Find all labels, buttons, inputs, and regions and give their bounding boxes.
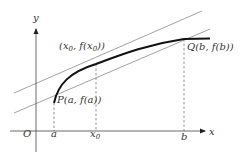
tick-label-b: b [181, 131, 187, 142]
secant-line [14, 29, 210, 113]
point-p-label: P(a, f(a)) [56, 94, 101, 105]
point-q-label: Q(b, f(b)) [187, 41, 234, 52]
tick-label-a: a [51, 128, 57, 139]
tp-post: )) [96, 40, 105, 51]
tp-mid: , f(x [73, 40, 93, 51]
tick-x0-sub: 0 [96, 133, 101, 141]
mvt-diagram: y x O a x0 b P(a, f(a)) (x0, f(x0)) Q(b,… [0, 0, 243, 156]
origin-label: O [23, 128, 31, 139]
tp-pre: (x [59, 40, 69, 51]
y-axis-label: y [32, 12, 39, 23]
point-p-coords: (a, f(a)) [64, 94, 102, 105]
tangent-point-label: (x0, f(x0)) [59, 40, 105, 53]
tangent-line [14, 11, 202, 93]
point-q-name: Q [187, 41, 195, 52]
point-q-coords: (b, f(b)) [195, 41, 234, 52]
tick-label-x0: x0 [90, 128, 101, 141]
x-axis-label: x [209, 126, 215, 137]
